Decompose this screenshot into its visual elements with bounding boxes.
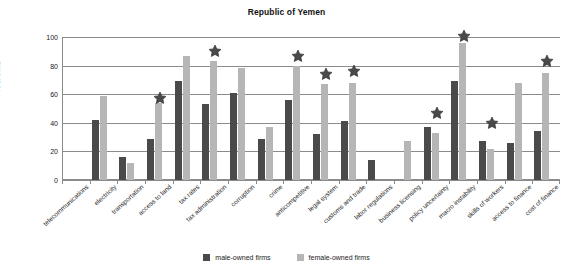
bar-group [62,37,90,180]
bar-group [366,37,394,180]
bar-female [459,43,466,180]
bar-male [175,81,182,180]
bar-male [92,120,99,180]
x-axis-label: telecommunications [42,183,90,227]
bar-female [487,149,494,180]
bar-male [285,100,292,180]
bar-group [339,37,367,180]
chart-container: Republic of Yemen 020406080100 % of firm… [0,0,573,275]
bar-female [349,83,356,180]
bar-male [147,139,154,180]
bar-female [266,127,273,180]
bar-group [449,37,477,180]
bar-female [542,73,549,180]
x-axis-label: corruption [229,183,255,208]
significance-star-icon [208,44,222,58]
y-tick-label-100: 100 [32,34,58,41]
bar-male [313,134,320,180]
x-axis-labels: telecommunicationselectricitytransportat… [62,183,560,253]
bar-group [505,37,533,180]
significance-star-icon [485,116,499,130]
bar-male [202,104,209,180]
y-tick-label-20: 20 [32,148,58,155]
y-axis-ticks: 020406080100 [32,37,58,180]
bar-female [404,141,411,180]
chart-title: Republic of Yemen [0,7,573,17]
y-tick-label-40: 40 [32,119,58,126]
bar-male [368,160,375,180]
significance-star-icon [319,67,333,81]
bar-female [432,133,439,180]
bar-male [424,127,431,180]
significance-star-icon [153,91,167,105]
plot-area [62,37,560,180]
bar-male [534,131,541,180]
y-axis-label: % of firms [0,61,1,92]
significance-star-icon [457,29,471,43]
bar-group [394,37,422,180]
y-tick-label-80: 80 [32,62,58,69]
bar-group [256,37,284,180]
bar-female [100,96,107,180]
legend-swatch-female [297,254,304,261]
x-axis-label: electricity [92,183,117,207]
legend-label-male: male-owned firms [215,254,270,261]
bar-male [119,157,126,180]
bar-female [238,68,245,180]
legend-swatch-male [203,254,210,261]
legend-item-male: male-owned firms [203,254,270,261]
bar-group [90,37,118,180]
bar-male [507,143,514,180]
bar-group [145,37,173,180]
chart-legend: male-owned firms female-owned firms [0,254,573,261]
x-axis-label: crime [267,183,284,199]
bar-male [230,93,237,180]
bar-female [127,163,134,180]
legend-item-female: female-owned firms [297,254,370,261]
bar-male [258,139,265,180]
bar-female [210,61,217,180]
y-tick-label-60: 60 [32,91,58,98]
bar-group [477,37,505,180]
legend-label-female: female-owned firms [309,254,370,261]
significance-star-icon [347,64,361,78]
bar-group [173,37,201,180]
significance-star-icon [540,54,554,68]
bar-group [228,37,256,180]
y-tick-label-0: 0 [32,177,58,184]
bar-group [117,37,145,180]
bar-group [311,37,339,180]
bar-group [200,37,228,180]
bar-female [321,84,328,180]
bar-male [341,121,348,180]
x-axis-label: tax rates [177,183,200,205]
bar-female [515,83,522,180]
bar-male [479,141,486,180]
bar-female [155,103,162,180]
bar-male [451,81,458,180]
bar-female [183,56,190,180]
bar-female [293,66,300,180]
significance-star-icon [291,49,305,63]
significance-star-icon [430,106,444,120]
